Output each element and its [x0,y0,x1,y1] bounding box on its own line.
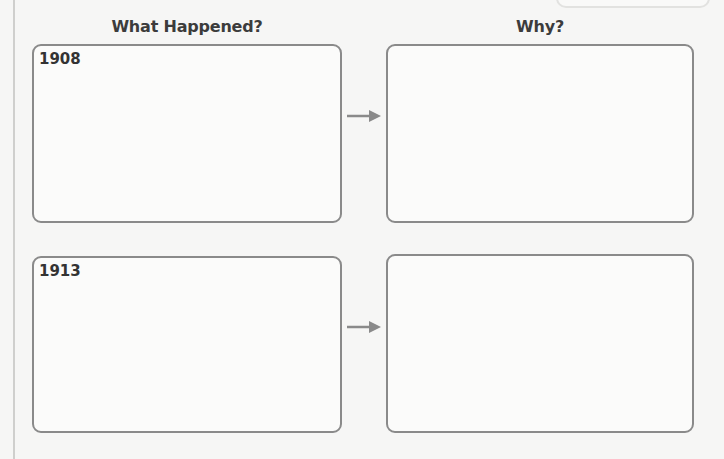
why-header: Why? [386,17,694,36]
year-label: 1913 [39,262,81,280]
arrow-right-icon [346,109,382,123]
what-happened-box-1908[interactable]: 1908 [32,44,342,223]
page-margin-rule [13,0,15,459]
why-box-1913[interactable] [386,254,694,433]
what-happened-header: What Happened? [32,17,342,36]
what-happened-box-1913[interactable]: 1913 [32,256,342,433]
why-box-1908[interactable] [386,44,694,223]
top-tab-decoration [556,0,710,8]
arrow-right-icon [346,320,382,334]
year-label: 1908 [39,50,81,68]
